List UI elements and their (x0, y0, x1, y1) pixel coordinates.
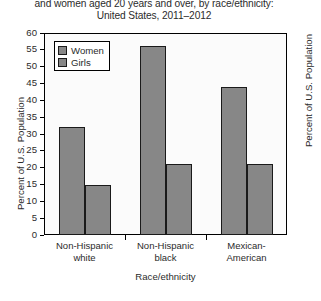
bar-girls-0 (85, 185, 111, 236)
y-tick-label: 30 (26, 128, 37, 140)
y-tick-mark (40, 66, 44, 67)
y-tick-mark (40, 167, 44, 168)
y-tick-mark (40, 184, 44, 185)
x-category-label: Mexican-American (206, 240, 287, 264)
bar-women-0 (59, 127, 85, 235)
y-tick-label: 45 (26, 77, 37, 89)
y-tick-mark (40, 100, 44, 101)
bar-girls-1 (166, 164, 192, 235)
y-axis-label: Percent of U.S. Population (15, 69, 26, 239)
bar-women-1 (140, 46, 166, 235)
chart-title-line-1: and women aged 20 years and over, by rac… (18, 0, 290, 10)
bar-girls-2 (247, 164, 273, 235)
x-category-line: Non-Hispanic (125, 240, 206, 252)
x-category-line: Mexican- (206, 240, 287, 252)
legend-label-women: Women (71, 45, 104, 56)
y-tick-mark (40, 150, 44, 151)
y-tick-label: 60 (26, 27, 37, 39)
y-axis-label-right: Percent of U.S. Population (303, 1, 314, 181)
y-tick-mark (40, 134, 44, 135)
y-tick-label: 10 (26, 195, 37, 207)
legend-label-girls: Girls (71, 57, 91, 68)
y-tick-label: 20 (26, 161, 37, 173)
y-tick-label: 5 (32, 212, 37, 224)
x-category-label: Non-Hispanicwhite (44, 240, 125, 264)
legend-item-girls: Girls (58, 56, 104, 68)
legend-item-women: Women (58, 44, 104, 56)
y-tick-label: 35 (26, 111, 37, 123)
y-tick-label: 50 (26, 60, 37, 72)
y-tick-label: 55 (26, 43, 37, 55)
y-tick-mark (40, 49, 44, 50)
y-tick-label: 25 (26, 144, 37, 156)
y-tick-mark (40, 201, 44, 202)
x-category-line: Non-Hispanic (44, 240, 125, 252)
y-tick-label: 0 (32, 229, 37, 241)
legend-swatch-icon (58, 58, 67, 67)
chart-figure: and women aged 20 years and over, by rac… (0, 0, 321, 301)
y-tick-mark (40, 83, 44, 84)
x-category-label: Non-Hispanicblack (125, 240, 206, 264)
y-tick-mark (40, 33, 44, 34)
y-tick-mark (40, 218, 44, 219)
x-category-line: black (125, 252, 206, 264)
legend-swatch-icon (58, 46, 67, 55)
x-category-line: white (44, 252, 125, 264)
bar-women-2 (221, 87, 247, 235)
chart-title: and women aged 20 years and over, by rac… (18, 0, 290, 23)
x-axis-label: Race/ethnicity (44, 271, 287, 282)
y-tick-mark (40, 235, 44, 236)
chart-title-line-2: United States, 2011–2012 (18, 10, 290, 22)
y-tick-label: 15 (26, 178, 37, 190)
x-category-line: American (206, 252, 287, 264)
y-tick-label: 40 (26, 94, 37, 106)
y-tick-mark (40, 117, 44, 118)
chart-legend: Women Girls (54, 41, 110, 71)
